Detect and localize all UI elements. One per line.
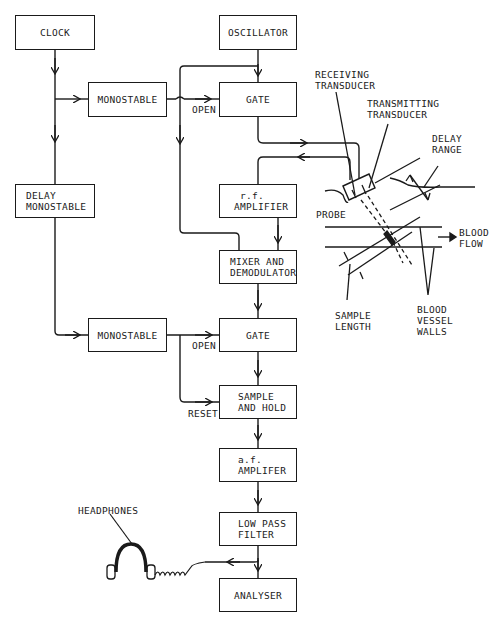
low-pass-filter-block: LOW PASS FILTER [219,512,297,546]
block-label: DEMODULATOR [220,267,296,278]
open-label-2: OPEN [192,340,216,351]
block-label: AND HOLD [220,402,286,413]
block-label: OSCILLATOR [228,27,288,38]
open-label-1: OPEN [192,104,216,115]
block-label: FILTER [220,529,274,540]
rf-amplifier-block: r.f. AMPLIFIER [219,184,297,218]
af-amplifier-block: a.f. AMPLIFER [219,448,297,482]
mixer-demodulator-block: MIXER AND DEMODULATOR [219,250,297,284]
label-line: BLOOD [417,304,453,315]
block-label: ANALYSER [234,590,282,601]
gate-to-transducer-line [258,116,359,178]
reset-label: RESET [188,408,218,419]
receiving-transducer-label: RECEIVING TRANSDUCER [315,69,375,91]
block-label: LOW PASS [220,518,286,529]
transmitting-transducer-label: TRANSMITTING TRANSDUCER [367,98,439,120]
block-label: GATE [246,94,270,105]
probe-label: PROBE [316,209,346,220]
label-line: FLOW [459,238,489,249]
label-line: TRANSDUCER [315,80,375,91]
probe-vessel-illustration [325,92,475,300]
oscillator-block: OSCILLATOR [219,15,297,50]
block-label: AMPLIFER [220,465,286,476]
gate-block-1: GATE [219,82,297,117]
block-label: DELAY [16,190,56,201]
monostable-block-2: MONOSTABLE [88,318,167,352]
blood-vessel-walls-label: BLOOD VESSEL WALLS [417,304,453,337]
blood-flow-label: BLOOD FLOW [459,227,489,249]
block-label: MONOSTABLE [97,330,157,341]
label-line: DELAY [432,133,462,144]
clock-block: CLOCK [15,15,95,50]
block-label: a.f. [220,454,262,465]
block-label: GATE [246,330,270,341]
block-label: MIXER AND [220,256,284,267]
block-label: MONOSTABLE [97,94,157,105]
label-line: RECEIVING [315,69,375,80]
transducer-to-rf-line [258,157,350,184]
label-line: SAMPLE [335,310,371,321]
blood-flow-arrow [438,233,456,241]
label-line: LENGTH [335,321,371,332]
label-line: BLOOD [459,227,489,238]
block-label: MONOSTABLE [16,201,86,212]
headphones-label: HEADPHONES [78,505,138,516]
headphones-icon [107,514,205,579]
label-line: TRANSMITTING [367,98,439,109]
delay-to-monostable-line [55,218,88,335]
delay-monostable-block: DELAY MONOSTABLE [15,184,95,218]
label-line: RANGE [432,144,462,155]
block-label: r.f. [220,190,264,201]
gate-block-2: GATE [219,318,297,352]
sample-length-label: SAMPLE LENGTH [335,310,371,332]
analyser-block: ANALYSER [219,578,297,612]
monostable-block-1: MONOSTABLE [88,82,167,117]
block-label: CLOCK [40,27,70,38]
block-label: SAMPLE [220,391,274,402]
label-line: VESSEL [417,315,453,326]
sample-hold-block: SAMPLE AND HOLD [219,385,297,419]
block-label: AMPLIFIER [220,201,288,212]
delay-range-label: DELAY RANGE [432,133,462,155]
label-line: TRANSDUCER [367,109,439,120]
label-line: WALLS [417,326,453,337]
